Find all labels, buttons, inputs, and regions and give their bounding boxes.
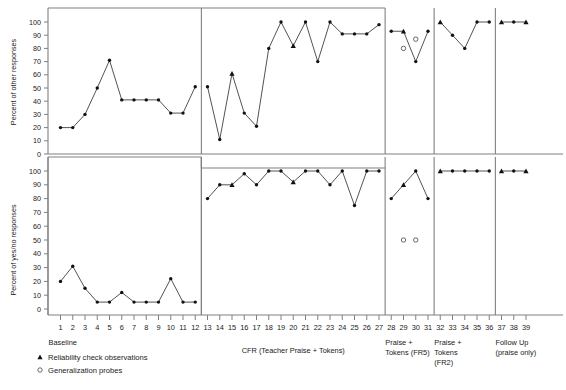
lower-panel-line-segment [391, 171, 428, 199]
x-tick-label: 6 [120, 323, 124, 332]
upper-panel-data-point [108, 59, 111, 62]
upper-panel-data-point [414, 60, 417, 63]
legend-open-circle-marker-icon [38, 368, 42, 372]
x-tick-label: 35 [473, 323, 481, 332]
figure-root: 0010102020303040405050606070708080909010… [0, 0, 566, 390]
upper-panel-data-point [353, 32, 356, 35]
upper-panel-generalization-probe [414, 37, 418, 41]
x-tick-label: 28 [387, 323, 395, 332]
lower-panel-generalization-probe [414, 238, 418, 242]
upper-y-tick-label: 20 [33, 123, 41, 132]
lower-y-tick-label: 70 [33, 208, 41, 217]
upper-panel-data-point [377, 23, 380, 26]
upper-panel-data-point [316, 60, 319, 63]
lower-panel-data-point [414, 169, 417, 172]
lower-panel-data-point [255, 183, 258, 186]
phase-label-cfr: CFR (Teacher Praise + Tokens) [242, 346, 345, 355]
upper-panel-line-segment [391, 31, 428, 61]
lower-panel-data-point [451, 169, 454, 172]
x-tick-label: 15 [228, 323, 236, 332]
lower-y-tick-label: 20 [33, 277, 41, 286]
upper-panel-data-point [451, 34, 454, 37]
phase-label-fr5-line1: Praise + [385, 338, 412, 347]
upper-panel-data-point [157, 98, 160, 101]
x-tick-label: 22 [314, 323, 322, 332]
x-tick-label: 31 [424, 323, 432, 332]
lower-panel-data-point [194, 300, 197, 303]
lower-panel-data-point [96, 300, 99, 303]
x-tick-label: 36 [485, 323, 493, 332]
upper-y-tick-label: 40 [33, 97, 41, 106]
lower-panel-data-point [145, 300, 148, 303]
upper-panel-data-point [194, 85, 197, 88]
upper-panel-data-point [463, 47, 466, 50]
x-tick-label: 39 [522, 323, 530, 332]
upper-panel-data-point [341, 32, 344, 35]
phase-label-fr2-line3: (FR2) [434, 358, 453, 367]
upper-panel-data-point [488, 20, 491, 23]
upper-y-tick-label: 70 [33, 57, 41, 66]
x-tick-label: 4 [95, 323, 99, 332]
legend-label-generalization: Generalization probes [48, 366, 122, 375]
phase-label-fr5-line2: Tokens (FR5) [385, 348, 429, 357]
lower-panel-data-point [304, 169, 307, 172]
upper-y-tick-label: 30 [33, 110, 41, 119]
lower-panel-data-point [365, 169, 368, 172]
x-tick-label: 21 [301, 323, 309, 332]
upper-y-tick-label: 60 [33, 70, 41, 79]
lower-panel-data-point [512, 169, 515, 172]
lower-y-tick-label: 0 [37, 305, 41, 314]
x-tick-label: 12 [191, 323, 199, 332]
lower-panel-data-point [108, 300, 111, 303]
upper-panel-data-point [243, 111, 246, 114]
x-tick-label: 16 [240, 323, 248, 332]
x-tick-label: 17 [252, 323, 260, 332]
lower-panel-data-point [267, 169, 270, 172]
x-tick-label: 37 [497, 323, 505, 332]
x-tick-label: 19 [277, 323, 285, 332]
lower-panel-data-point [59, 280, 62, 283]
lower-panel-data-point [181, 300, 184, 303]
x-tick-label: 2 [71, 323, 75, 332]
single-subject-design-chart: 0010102020303040405050606070708080909010… [0, 0, 566, 390]
x-tick-label: 34 [461, 323, 469, 332]
lower-panel-data-point [488, 169, 491, 172]
lower-panel-data-point [169, 277, 172, 280]
lower-panel-data-point [316, 169, 319, 172]
x-tick-label: 25 [350, 323, 358, 332]
lower-panel-data-point [120, 291, 123, 294]
lower-panel-data-point [132, 300, 135, 303]
upper-panel-data-point [181, 111, 184, 114]
x-tick-label: 13 [203, 323, 211, 332]
upper-panel-data-point [132, 98, 135, 101]
x-tick-label: 33 [448, 323, 456, 332]
lower-y-tick-label: 30 [33, 263, 41, 272]
upper-panel-data-point [145, 98, 148, 101]
x-tick-label: 23 [326, 323, 334, 332]
lower-y-tick-label: 40 [33, 249, 41, 258]
lower-axis-title: Percent of yes/no responses [9, 204, 18, 295]
x-tick-label: 10 [167, 323, 175, 332]
upper-axis-title: Percent of other responses [9, 38, 18, 125]
x-tick-label: 14 [216, 323, 224, 332]
phase-label-followup-line1: Follow Up [496, 338, 529, 347]
x-tick-label: 7 [132, 323, 136, 332]
lower-panel-line-segment [208, 171, 380, 206]
upper-panel-data-point [83, 113, 86, 116]
upper-panel-line-segment [440, 22, 489, 48]
lower-panel-generalization-probe [401, 238, 405, 242]
lower-panel-data-point [328, 183, 331, 186]
upper-panel-data-point [267, 47, 270, 50]
upper-panel-data-point [71, 126, 74, 129]
upper-panel-data-point [475, 20, 478, 23]
lower-panel-data-point [475, 169, 478, 172]
upper-panel-data-point [512, 20, 515, 23]
upper-y-tick-label: 90 [33, 31, 41, 40]
lower-panel-data-point [157, 300, 160, 303]
x-tick-label: 20 [289, 323, 297, 332]
upper-panel-line-segment [208, 22, 380, 139]
lower-panel-data-point [463, 169, 466, 172]
x-tick-label: 9 [156, 323, 160, 332]
x-tick-label: 3 [83, 323, 87, 332]
upper-y-tick-label: 80 [33, 44, 41, 53]
